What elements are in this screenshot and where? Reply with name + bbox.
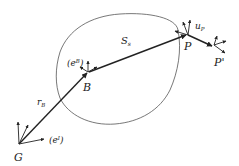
body-outline: [56, 14, 179, 125]
label-rB: rB: [37, 97, 45, 108]
frame-Pprime-axes-icon: [214, 36, 226, 53]
label-eB: (eB): [67, 58, 84, 68]
diagram-canvas: G B P P' Ss rB uP (eB) (eI): [0, 0, 239, 166]
label-P: P: [183, 40, 192, 53]
label-S: Ss: [121, 35, 131, 47]
label-P-prime: P': [213, 56, 224, 69]
label-eI: (eI): [49, 135, 64, 145]
BP-vector: [89, 35, 186, 72]
label-uP: uP: [195, 21, 205, 32]
kinematics-diagram: G B P P' Ss rB uP (eB) (eI): [0, 0, 239, 166]
label-G: G: [14, 151, 23, 164]
uP-vector: [188, 35, 212, 46]
rB-vector: [19, 73, 87, 144]
label-B: B: [82, 81, 91, 94]
